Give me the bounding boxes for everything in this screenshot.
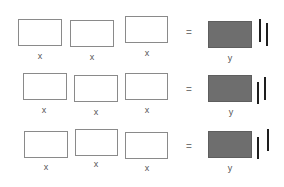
x-tile <box>75 129 118 156</box>
x-tile <box>24 131 68 158</box>
y-tile <box>208 75 252 102</box>
y-tile <box>208 131 252 158</box>
y-label: y <box>220 163 240 173</box>
equals-sign: = <box>184 85 194 95</box>
unit-bar <box>266 23 268 46</box>
x-tile <box>125 132 168 159</box>
x-label: x <box>137 105 157 115</box>
x-label: x <box>86 107 106 117</box>
unit-bar <box>257 82 259 104</box>
x-tile <box>74 75 118 102</box>
unit-bar <box>267 129 269 151</box>
x-tile <box>125 73 168 100</box>
equals-sign: = <box>184 28 194 38</box>
x-label: x <box>34 105 54 115</box>
x-label: x <box>137 48 157 58</box>
x-label: x <box>30 51 50 61</box>
x-label: x <box>82 52 102 62</box>
unit-bar <box>257 137 259 159</box>
x-tile <box>18 19 62 46</box>
x-tile <box>125 16 168 43</box>
y-label: y <box>221 107 241 117</box>
x-tile <box>23 73 67 100</box>
unit-bar <box>259 19 261 42</box>
x-label: x <box>137 163 157 173</box>
x-label: x <box>86 159 106 169</box>
y-label: y <box>220 53 240 63</box>
y-tile <box>208 21 252 48</box>
equals-sign: = <box>184 142 194 152</box>
unit-bar <box>264 77 266 100</box>
x-tile <box>70 20 114 47</box>
x-label: x <box>36 162 56 172</box>
